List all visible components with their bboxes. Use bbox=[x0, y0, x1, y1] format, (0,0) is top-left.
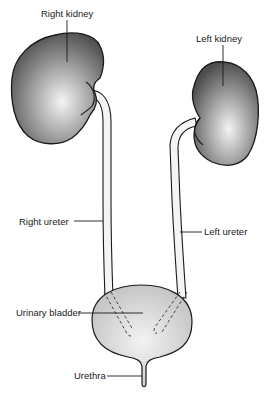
right-kidney bbox=[12, 33, 104, 144]
urinary-system-diagram bbox=[0, 0, 273, 395]
label-urethra: Urethra bbox=[74, 370, 106, 381]
label-right-ureter: Right ureter bbox=[19, 216, 69, 227]
urinary-bladder bbox=[92, 285, 192, 387]
left-ureter bbox=[170, 118, 197, 298]
label-left-kidney: Left kidney bbox=[196, 33, 242, 44]
label-urinary-bladder: Urinary bladder bbox=[16, 307, 81, 318]
label-left-ureter: Left ureter bbox=[204, 226, 247, 237]
right-ureter bbox=[88, 90, 113, 298]
label-right-kidney: Right kidney bbox=[41, 8, 93, 19]
left-kidney bbox=[193, 62, 259, 166]
